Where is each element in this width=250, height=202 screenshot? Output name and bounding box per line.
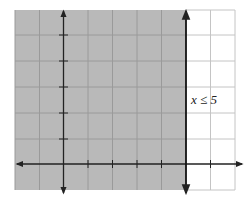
inequality-label: x ≤ 5	[190, 92, 217, 107]
inequality-graph: x ≤ 5	[0, 0, 250, 202]
shaded-region	[15, 10, 186, 190]
